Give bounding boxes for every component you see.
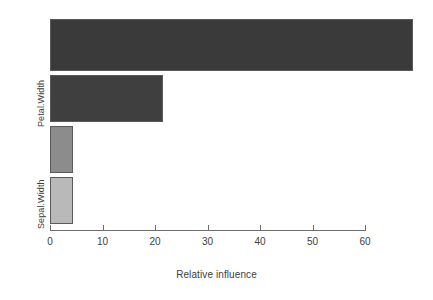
x-axis-tick <box>313 225 314 231</box>
x-axis-tick <box>365 225 366 231</box>
x-axis-tick-label: 50 <box>307 236 318 247</box>
x-axis-tick <box>103 225 104 231</box>
x-axis-tick <box>155 225 156 231</box>
x-axis-tick-label: 20 <box>149 236 160 247</box>
x-axis-tick-label: 30 <box>202 236 213 247</box>
x-axis-tick-label: 60 <box>359 236 370 247</box>
x-axis-tick <box>50 225 51 231</box>
x-axis-tick <box>208 225 209 231</box>
relative-influence-bar-chart: Petal.Width Sepal.Width 0102030405060 Re… <box>0 0 433 300</box>
x-axis-tick-label: 10 <box>97 236 108 247</box>
bar-sepal-length <box>50 126 73 173</box>
bar-petal-width <box>50 75 163 122</box>
y-axis-label-petal-width: Petal.Width <box>36 80 46 127</box>
x-axis-title: Relative influence <box>0 269 433 280</box>
bar-sepal-width <box>50 177 73 224</box>
x-axis-tick-label: 0 <box>47 236 53 247</box>
x-axis-tick-label: 40 <box>254 236 265 247</box>
y-axis-label-sepal-width: Sepal.Width <box>36 179 46 229</box>
bar-petal-length <box>50 19 413 71</box>
x-axis-tick <box>260 225 261 231</box>
